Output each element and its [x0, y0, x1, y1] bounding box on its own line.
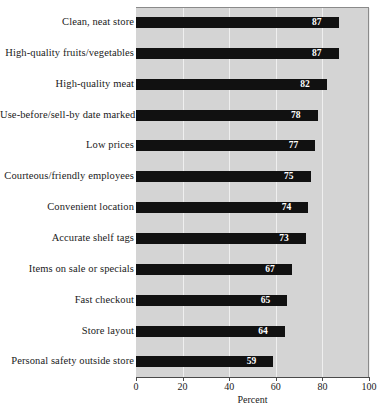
bar-value-label: 74 — [275, 202, 297, 213]
x-axis-tick-label: 80 — [307, 381, 337, 393]
bar-row: 75 — [136, 171, 369, 182]
category-label: Convenient location — [0, 201, 134, 212]
x-axis-tick-label: 20 — [168, 381, 198, 393]
bar-row: 78 — [136, 110, 369, 121]
x-axis-tick-label: 60 — [261, 381, 291, 393]
bar-row: 73 — [136, 233, 369, 244]
bar-value-label: 64 — [252, 326, 274, 337]
bar-value-label: 67 — [259, 264, 281, 275]
bar-value-label: 65 — [254, 295, 276, 306]
bar-row: 67 — [136, 264, 369, 275]
gridline — [229, 8, 230, 377]
bar-row: 74 — [136, 202, 369, 213]
category-axis-labels: Clean, neat storeHigh-quality fruits/veg… — [0, 0, 134, 377]
category-label: Fast checkout — [0, 294, 134, 305]
category-label: Use-before/sell-by date marked — [0, 109, 134, 120]
bar-value-label: 87 — [306, 48, 328, 59]
gridlines — [136, 8, 368, 377]
bar-value-label: 87 — [306, 17, 328, 28]
bar-row: 77 — [136, 140, 369, 151]
bar-value-label: 82 — [294, 79, 316, 90]
gridline — [322, 8, 323, 377]
category-label: Store layout — [0, 325, 134, 336]
category-label: Courteous/friendly employees — [0, 170, 134, 181]
bar-value-label: 78 — [285, 110, 307, 121]
category-label: Items on sale or specials — [0, 263, 134, 274]
x-axis: Percent 020406080100 — [136, 377, 369, 409]
category-label: Accurate shelf tags — [0, 232, 134, 243]
bar-value-label: 73 — [273, 233, 295, 244]
category-label: Low prices — [0, 139, 134, 150]
x-axis-line — [136, 377, 369, 378]
bar-value-label: 75 — [278, 171, 300, 182]
plot-area: 878782787775747367656459 — [136, 7, 369, 377]
category-label: Personal safety outside store — [0, 355, 134, 366]
bar-row: 65 — [136, 295, 369, 306]
category-label: High-quality fruits/vegetables — [0, 47, 134, 58]
bar-row: 59 — [136, 356, 369, 367]
bar-row: 87 — [136, 48, 369, 59]
bar-row: 64 — [136, 326, 369, 337]
x-axis-tick-label: 0 — [121, 381, 151, 393]
bar-row: 82 — [136, 79, 369, 90]
gridline — [369, 8, 370, 377]
bar-chart: Clean, neat storeHigh-quality fruits/veg… — [0, 0, 377, 409]
x-axis-title: Percent — [136, 394, 369, 406]
bar-value-label: 77 — [282, 140, 304, 151]
category-label: Clean, neat store — [0, 16, 134, 27]
x-axis-tick-label: 40 — [214, 381, 244, 393]
bar-row: 87 — [136, 17, 369, 28]
x-axis-tick-label: 100 — [354, 381, 377, 393]
gridline — [276, 8, 277, 377]
gridline — [183, 8, 184, 377]
bar-value-label: 59 — [240, 356, 262, 367]
category-label: High-quality meat — [0, 78, 134, 89]
